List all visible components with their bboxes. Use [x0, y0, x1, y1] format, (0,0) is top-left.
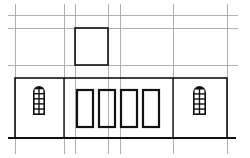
doors-group — [77, 90, 159, 127]
door — [143, 90, 159, 127]
door — [99, 90, 115, 127]
upper-box — [75, 28, 108, 65]
arched-window-icon — [193, 86, 206, 115]
door — [121, 90, 137, 127]
grid-lines — [8, 4, 238, 154]
arched-window-icon — [33, 86, 45, 115]
door — [77, 90, 93, 127]
building-elevation-drawing — [0, 0, 250, 158]
arched-windows-group — [33, 86, 206, 115]
